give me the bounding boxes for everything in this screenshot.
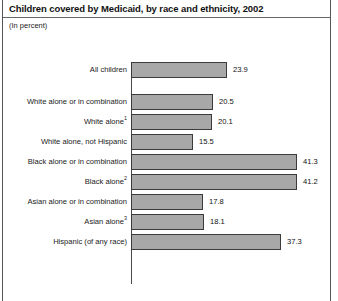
bar bbox=[131, 94, 213, 110]
bar-value-label: 15.5 bbox=[199, 137, 214, 146]
bar bbox=[131, 114, 212, 130]
bar-value-label: 23.9 bbox=[233, 65, 248, 74]
bar-category-label: Asian alone3 bbox=[84, 217, 127, 226]
bar-row: All children23.9 bbox=[0, 62, 338, 78]
bar-value-label: 20.1 bbox=[218, 117, 233, 126]
plot-area: All children23.9White alone or in combin… bbox=[0, 58, 338, 288]
bar-row: Black alone241.2 bbox=[0, 174, 338, 190]
bar-category-label: Hispanic (of any race) bbox=[53, 237, 127, 246]
bar bbox=[131, 234, 281, 250]
bar-value-label: 41.3 bbox=[303, 157, 318, 166]
footnote-marker: 2 bbox=[124, 175, 127, 181]
footnote-marker: 1 bbox=[124, 115, 127, 121]
bar-value-label: 18.1 bbox=[210, 217, 225, 226]
bar-value-label: 20.5 bbox=[219, 97, 234, 106]
chart-figure: Children covered by Medicaid, by race an… bbox=[0, 0, 338, 301]
bar-value-label: 17.8 bbox=[209, 197, 224, 206]
bar bbox=[131, 194, 203, 210]
bar-category-label: White alone, not Hispanic bbox=[41, 137, 127, 146]
chart-title: Children covered by Medicaid, by race an… bbox=[9, 3, 263, 14]
bar-category-label: All children bbox=[90, 65, 127, 74]
bar-row: White alone120.1 bbox=[0, 114, 338, 130]
bar-value-label: 41.2 bbox=[303, 177, 318, 186]
bar-row: Black alone or in combination41.3 bbox=[0, 154, 338, 170]
bar bbox=[131, 214, 204, 230]
bar-row: Asian alone or in combination17.8 bbox=[0, 194, 338, 210]
bar-category-label: White alone1 bbox=[84, 117, 127, 126]
bar-row: Asian alone318.1 bbox=[0, 214, 338, 230]
bar bbox=[131, 174, 297, 190]
bar bbox=[131, 62, 227, 78]
bar-category-label: Black alone2 bbox=[85, 177, 127, 186]
bar-value-label: 37.3 bbox=[287, 237, 302, 246]
bar-category-label: White alone or in combination bbox=[27, 97, 127, 106]
bar-category-label: Black alone or in combination bbox=[28, 157, 127, 166]
footnote-marker: 3 bbox=[124, 215, 127, 221]
bar-row: Hispanic (of any race)37.3 bbox=[0, 234, 338, 250]
title-divider bbox=[3, 17, 330, 18]
bar-category-label: Asian alone or in combination bbox=[27, 197, 127, 206]
bar-row: White alone or in combination20.5 bbox=[0, 94, 338, 110]
chart-subtitle: (In percent) bbox=[9, 21, 47, 30]
bar bbox=[131, 154, 297, 170]
bar bbox=[131, 134, 193, 150]
bar-row: White alone, not Hispanic15.5 bbox=[0, 134, 338, 150]
